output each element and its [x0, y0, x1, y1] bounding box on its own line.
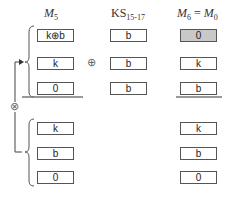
- bottom-left-cell-2: b: [37, 147, 74, 160]
- header-m5-sub: 5: [54, 13, 58, 22]
- header-m5-main: M: [44, 6, 54, 20]
- header-equals: =: [191, 6, 204, 20]
- header-ks: KS15-17: [111, 6, 145, 22]
- header-ks-sub: 15-17: [126, 13, 145, 22]
- header-m5: M5: [44, 6, 58, 22]
- m6-cell-1-highlighted: 0: [180, 29, 217, 42]
- bottom-right-cell-2: b: [180, 147, 217, 160]
- m6-cell-3: b: [180, 82, 217, 95]
- ks-cell-3: b: [110, 82, 147, 95]
- header-m0-main: M: [204, 6, 214, 20]
- bottom-left-cell-1: k: [37, 122, 74, 135]
- ks-cell-2: b: [110, 57, 147, 70]
- header-ks-main: KS: [111, 6, 126, 20]
- ks-cell-1: b: [110, 29, 147, 42]
- header-m6-main: M: [177, 6, 187, 20]
- bottom-right-cell-3: 0: [180, 171, 217, 184]
- header-m0-sub: 0: [214, 13, 218, 22]
- m5-cell-2: k: [37, 57, 74, 70]
- bottom-left-cell-3: 0: [37, 171, 74, 184]
- m5-cell-1: k⊕b: [37, 29, 74, 42]
- m5-cell-3: 0: [37, 82, 74, 95]
- m6-cell-2: k: [180, 57, 217, 70]
- xor-operator: ⊕: [87, 57, 96, 68]
- otimes-operator: ⊗: [10, 101, 19, 112]
- bottom-right-cell-1: k: [180, 122, 217, 135]
- header-m6-m0: M6 = M0: [177, 6, 218, 22]
